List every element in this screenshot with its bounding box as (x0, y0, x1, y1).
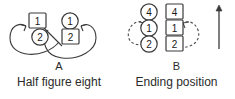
left-arrowhead-icon (20, 25, 26, 32)
half-figure-eight-diagram: 1 1 2 2 (0, 0, 118, 60)
node-label: 2 (146, 39, 152, 50)
node-circle-1: 1 (141, 20, 157, 36)
panel-a-letter: A (0, 60, 118, 72)
panel-b-caption: Ending position (118, 75, 235, 89)
panel-a: 1 1 2 2 A Half figure eight (0, 0, 118, 99)
node-label: 1 (67, 16, 73, 27)
arrow-head (216, 5, 222, 11)
right-arrowhead-icon (81, 25, 87, 32)
node-label: 1 (35, 16, 41, 27)
right-arrowhead-icon (183, 22, 189, 28)
node-label: 2 (172, 39, 178, 50)
panel-a-caption: Half figure eight (0, 75, 118, 89)
node-label: 2 (37, 32, 43, 43)
node-label: 4 (146, 7, 152, 18)
square-column: 4 1 2 (166, 4, 183, 51)
node-square-1-upper-left: 1 (29, 13, 46, 28)
panel-b-letter: B (118, 60, 235, 72)
node-circle-1-upper-right: 1 (62, 13, 78, 29)
node-square-4: 4 (166, 4, 183, 19)
ending-position-diagram: 4 1 2 4 1 (118, 0, 235, 60)
panel-b: 4 1 2 4 1 (118, 0, 235, 99)
node-label: 1 (172, 23, 178, 34)
node-circle-2-lower-left: 2 (32, 29, 48, 45)
up-arrow-icon (216, 5, 222, 49)
node-label: 2 (68, 32, 74, 43)
node-circle-2: 2 (141, 36, 157, 52)
node-circle-4: 4 (141, 4, 157, 20)
node-square-2: 2 (166, 36, 183, 51)
circle-column: 4 1 2 (141, 4, 157, 52)
figure-root: 1 1 2 2 A Half figure eight (0, 0, 235, 99)
node-square-1: 1 (166, 20, 183, 35)
node-square-2-lower-right: 2 (62, 29, 79, 44)
node-label: 1 (146, 23, 152, 34)
node-label: 4 (172, 7, 178, 18)
